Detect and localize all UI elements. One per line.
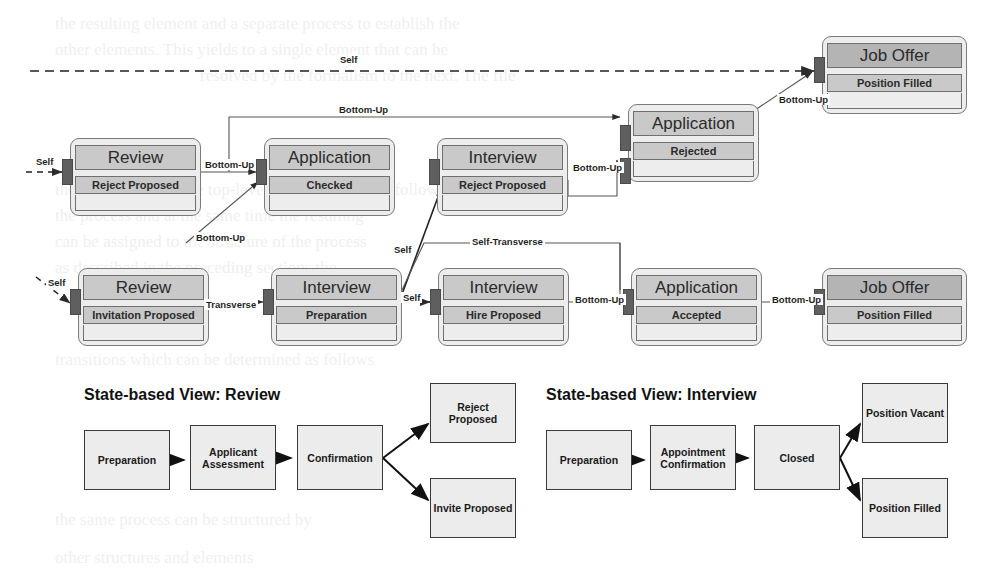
state-box-interview-appointment[interactable]: Appointment Confirmation <box>650 425 736 490</box>
process-node-review-reject[interactable]: ReviewReject Proposed <box>70 138 201 216</box>
state-box-review-confirmation[interactable]: Confirmation <box>297 425 383 490</box>
node-state-label: Position Filled <box>827 74 962 92</box>
connector-port-review-invitation[interactable] <box>70 289 81 315</box>
diagram-canvas: the resulting element and a separate pro… <box>0 0 985 572</box>
edge-label-self-diag-lower: Self <box>401 292 422 303</box>
state-box-review-invite-prop[interactable]: Invite Proposed <box>430 478 516 538</box>
node-footer-compartment <box>269 195 390 211</box>
node-state-label: Reject Proposed <box>75 176 196 194</box>
edge-label-bottomup-to-rejected: Bottom-Up <box>571 162 624 173</box>
node-footer-compartment <box>83 325 204 341</box>
connector-port-interview-prep[interactable] <box>263 289 274 315</box>
node-footer-compartment <box>276 325 397 341</box>
node-title: Job Offer <box>827 275 962 300</box>
node-title: Interview <box>442 145 563 170</box>
state-box-interview-preparation[interactable]: Preparation <box>546 430 632 490</box>
state-view-interview-title: State-based View: Interview <box>546 386 756 404</box>
node-footer-compartment <box>443 325 564 341</box>
connector-port-joboffer-top[interactable] <box>814 57 825 83</box>
edge-label-bottomup-app-joboffer: Bottom-Up <box>770 294 823 305</box>
process-node-interview-prep[interactable]: InterviewPreparation <box>271 268 402 346</box>
node-state-label: Hire Proposed <box>443 306 564 324</box>
process-node-application-rejected[interactable]: ApplicationRejected <box>628 104 759 182</box>
node-footer-compartment <box>827 325 962 341</box>
edge-label-self-diag-upper: Self <box>392 244 413 255</box>
connector-port-application-rejected-a[interactable] <box>620 125 631 151</box>
process-node-application-accepted[interactable]: ApplicationAccepted <box>631 268 762 346</box>
state-box-interview-pos-vacant[interactable]: Position Vacant <box>862 383 948 443</box>
edge-label-self-into-review-2: Self <box>46 277 67 288</box>
node-footer-compartment <box>636 325 757 341</box>
connector-port-application-checked[interactable] <box>256 159 267 185</box>
node-state-label: Position Filled <box>827 306 962 324</box>
edge-label-self-top: Self <box>338 54 359 65</box>
edge-label-bottomup-top-long: Bottom-Up <box>337 104 390 115</box>
state-box-review-assessment[interactable]: Applicant Assessment <box>190 425 276 490</box>
state-box-interview-closed[interactable]: Closed <box>754 425 840 490</box>
node-state-label: Rejected <box>633 142 754 160</box>
node-footer-compartment <box>827 93 962 109</box>
edge-label-bottomup-review-app: Bottom-Up <box>203 159 256 170</box>
process-node-interview-reject[interactable]: InterviewReject Proposed <box>437 138 568 216</box>
node-state-label: Accepted <box>636 306 757 324</box>
node-footer-compartment <box>442 195 563 211</box>
edge-label-bottomup-hire-app: Bottom-Up <box>573 294 626 305</box>
state-view-review-title: State-based View: Review <box>84 386 280 404</box>
edge-label-bottomup-left-diag: Bottom-Up <box>194 232 247 243</box>
node-title: Review <box>83 275 204 300</box>
state-box-review-preparation[interactable]: Preparation <box>84 430 170 490</box>
edge-label-self-into-review-1: Self <box>34 156 55 167</box>
node-state-label: Invitation Proposed <box>83 306 204 324</box>
node-title: Application <box>633 111 754 136</box>
node-state-label: Checked <box>269 176 390 194</box>
node-state-label: Reject Proposed <box>442 176 563 194</box>
node-title: Job Offer <box>827 43 962 68</box>
process-node-review-invitation[interactable]: ReviewInvitation Proposed <box>78 268 209 346</box>
node-title: Review <box>75 145 196 170</box>
connector-port-interview-hire[interactable] <box>430 289 441 315</box>
node-title: Interview <box>276 275 397 300</box>
state-box-review-reject-prop[interactable]: Reject Proposed <box>430 383 516 443</box>
edge-label-transverse: Transverse <box>204 299 258 310</box>
edge-label-bottomup-to-joboffer: Bottom-Up <box>777 94 830 105</box>
node-title: Application <box>636 275 757 300</box>
connector-port-interview-reject[interactable] <box>429 159 440 185</box>
edge-label-self-transverse: Self-Transverse <box>470 236 545 247</box>
process-node-joboffer-top[interactable]: Job OfferPosition Filled <box>822 36 967 114</box>
node-title: Interview <box>443 275 564 300</box>
process-node-joboffer-bottom[interactable]: Job OfferPosition Filled <box>822 268 967 346</box>
node-state-label: Preparation <box>276 306 397 324</box>
state-box-interview-pos-filled[interactable]: Position Filled <box>862 478 948 538</box>
node-footer-compartment <box>633 161 754 177</box>
node-footer-compartment <box>75 195 196 211</box>
process-node-application-checked[interactable]: ApplicationChecked <box>264 138 395 216</box>
connector-port-review-reject[interactable] <box>62 159 73 185</box>
process-node-interview-hire[interactable]: InterviewHire Proposed <box>438 268 569 346</box>
node-title: Application <box>269 145 390 170</box>
